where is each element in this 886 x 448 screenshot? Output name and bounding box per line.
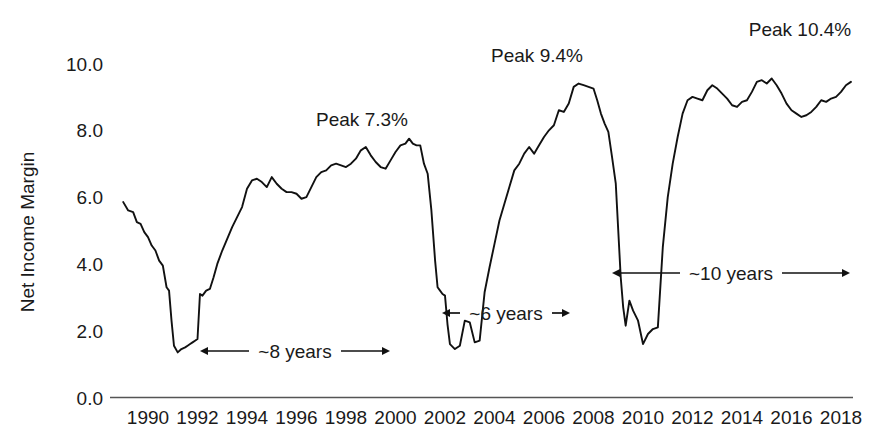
y-tick-label: 4.0 <box>77 254 103 275</box>
x-tick-label: 1994 <box>226 407 269 428</box>
chart-container: Net Income Margin 0.02.04.06.08.010.0 19… <box>0 0 886 448</box>
x-tick-label: 1998 <box>325 407 367 428</box>
peak-annotation-label: Peak 10.4% <box>749 19 852 40</box>
peak-annotation-label: Peak 9.4% <box>491 45 583 66</box>
y-tick-label: 8.0 <box>77 120 103 141</box>
duration-span-label: ~10 years <box>689 263 773 284</box>
y-axis-title: Net Income Margin <box>17 152 38 313</box>
duration-span-label: ~8 years <box>258 341 331 362</box>
x-tick-label: 2002 <box>424 407 466 428</box>
x-tick-label: 2018 <box>820 407 862 428</box>
y-tick-label: 0.0 <box>77 388 103 409</box>
x-tick-label: 2012 <box>671 407 713 428</box>
x-tick-label: 1996 <box>275 407 317 428</box>
y-tick-label: 6.0 <box>77 187 103 208</box>
x-tick-label: 1992 <box>176 407 218 428</box>
x-tick-label: 1990 <box>127 407 169 428</box>
x-tick-label: 2010 <box>622 407 664 428</box>
x-tick-label: 2008 <box>572 407 614 428</box>
x-tick-label: 2004 <box>473 407 516 428</box>
duration-span-label: ~6 years <box>469 303 542 324</box>
x-tick-label: 2000 <box>374 407 416 428</box>
peak-annotation-label: Peak 7.3% <box>316 109 408 130</box>
x-tick-label: 2006 <box>523 407 565 428</box>
chart-background <box>0 0 886 448</box>
x-axis-tick-labels: 1990199219941996199820002002200420062008… <box>127 407 862 428</box>
y-tick-label: 10.0 <box>66 54 103 75</box>
y-tick-label: 2.0 <box>77 321 103 342</box>
x-tick-label: 2014 <box>721 407 764 428</box>
x-tick-label: 2016 <box>770 407 812 428</box>
net-income-margin-line-chart: Net Income Margin 0.02.04.06.08.010.0 19… <box>0 0 886 448</box>
